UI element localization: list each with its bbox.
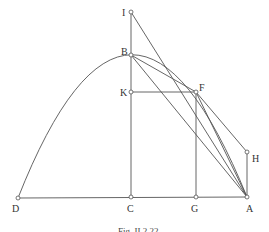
point-D [16,196,20,200]
label-F: F [199,82,205,93]
label-A: A [246,203,254,214]
label-G: G [191,203,198,214]
point-K [129,90,133,94]
label-H: H [252,153,259,164]
point-H [245,150,249,154]
label-C: C [127,203,134,214]
label-K: K [120,87,128,98]
geometry-figure: I B K F H D C G A Fig. II.2.22 [0,0,269,232]
point-A [245,195,249,199]
point-C [129,195,133,199]
line-BF [131,55,196,92]
point-G [194,195,198,199]
line-BA [131,55,247,197]
label-B: B [121,46,128,57]
label-D: D [12,203,19,214]
label-I: I [122,7,125,18]
line-IA [131,12,247,197]
point-F [194,90,198,94]
point-I [129,10,133,14]
figure-caption: Fig. II.2.22 [118,226,159,232]
line-FH [196,92,247,152]
point-B [129,53,133,57]
